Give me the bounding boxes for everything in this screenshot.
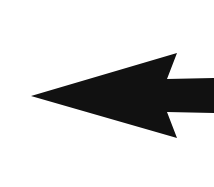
arrow-graphic: Left pointing arrow Solid black barbed a… bbox=[0, 0, 214, 187]
image-canvas: Left pointing arrow Solid black barbed a… bbox=[0, 0, 214, 187]
